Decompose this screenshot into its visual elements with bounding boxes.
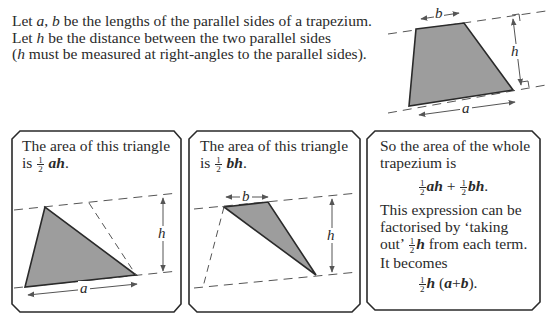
box3-line-2: trapezium is <box>380 154 530 171</box>
triangle-bh <box>224 202 316 275</box>
box2-line-1: The area of this triangle <box>200 137 348 154</box>
box1-label-a: a <box>78 281 90 295</box>
box3-line-6: It becomes <box>380 254 527 271</box>
box2-caption: The area of this triangle is 12 bh. <box>200 137 348 173</box>
right-angle-mark-bottom <box>521 81 529 87</box>
box1-caption: The area of this triangle is 12 ah. <box>22 137 170 173</box>
box3-line-4: factorised by ‘taking <box>380 218 527 235</box>
box2-label-b: b <box>240 189 252 203</box>
top-label-h: h <box>511 44 519 59</box>
box3-line-5: out’ 12h from each term. <box>380 235 527 254</box>
box3-line-3: This expression can be <box>380 201 527 218</box>
fraction-half: 12 <box>37 156 44 173</box>
fraction-half: 12 <box>215 156 222 173</box>
triangle-ah-diagram <box>14 193 178 295</box>
box3-line-1: So the area of the whole <box>380 137 530 154</box>
top-label-b: b <box>434 6 444 20</box>
box2-label-h: h <box>327 228 335 243</box>
box3-formula-factorised: 12h (a+b). <box>418 274 477 293</box>
box1-line-1: The area of this triangle <box>22 137 170 154</box>
triangle-ah <box>25 207 136 287</box>
box1-label-h: h <box>158 226 166 241</box>
box2-line-2: is 12 bh. <box>200 154 348 173</box>
box2-dashed-side <box>203 207 224 287</box>
top-label-a: a <box>460 101 472 115</box>
box2-top-parallel-line <box>194 193 358 209</box>
box3-caption-top: So the area of the whole trapezium is <box>380 137 530 171</box>
box3-caption-middle: This expression can be factorised by ‘ta… <box>380 201 527 271</box>
box1-top-parallel-line <box>14 193 178 210</box>
box2-bottom-parallel-line <box>194 272 358 288</box>
box3-formula-sum: 12ah + 12bh. <box>418 177 488 196</box>
box1-line-2: is 12 ah. <box>22 154 170 173</box>
